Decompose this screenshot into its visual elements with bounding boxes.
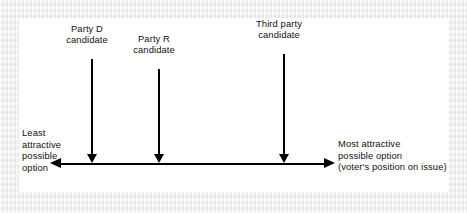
label-third-party-line1: Third party [233, 18, 325, 29]
marker-arrowhead-party-r-icon [154, 154, 164, 163]
label-party-r-candidate: Party R candidate [108, 33, 200, 56]
axis-label-least-line3: possible [22, 150, 61, 162]
marker-stem-party-r [158, 69, 160, 154]
axis-label-most-line3: (voter's position on issue) [338, 161, 447, 173]
axis-arrowhead-right-icon [324, 158, 335, 168]
marker-stem-third-party [283, 54, 285, 154]
axis-label-least-attractive: Least attractive possible option [22, 127, 61, 174]
axis-label-most-line1: Most attractive [338, 138, 447, 150]
marker-arrowhead-third-party-icon [279, 154, 289, 163]
axis-label-least-line2: attractive [22, 139, 61, 151]
axis-label-most-line2: possible option [338, 150, 447, 162]
label-third-party-line2: candidate [233, 29, 325, 40]
label-party-r-line2: candidate [108, 44, 200, 55]
axis-label-least-line4: option [22, 162, 61, 174]
diagram-canvas: Party D candidate Party R candidate Thir… [19, 18, 448, 192]
label-third-party-candidate: Third party candidate [233, 18, 325, 41]
figure-page-border: Party D candidate Party R candidate Thir… [0, 0, 467, 213]
marker-arrowhead-party-d-icon [87, 154, 97, 163]
label-party-r-line1: Party R [108, 33, 200, 44]
axis-label-most-attractive: Most attractive possible option (voter's… [338, 138, 447, 173]
axis-label-least-line1: Least [22, 127, 61, 139]
marker-stem-party-d [91, 59, 93, 154]
